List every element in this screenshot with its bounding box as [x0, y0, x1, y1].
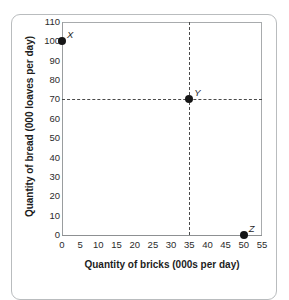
x-tick-label: 40 [202, 240, 213, 250]
x-tick-label: 15 [111, 240, 122, 250]
y-tick-label: 80 [34, 75, 60, 85]
y-tick-label: 30 [34, 172, 60, 182]
x-tick-label: 30 [166, 240, 177, 250]
x-tick-label: 0 [59, 240, 64, 250]
y-tick-label: 70 [34, 95, 60, 105]
x-tick-label: 25 [148, 240, 159, 250]
data-point-z [240, 231, 248, 239]
x-tick-label: 5 [78, 240, 83, 250]
x-tick-label: 45 [220, 240, 231, 250]
x-axis-title: Quantity of bricks (000s per day) [62, 259, 262, 270]
x-axis-tick-labels: 0510152025303540455055 [0, 240, 289, 254]
x-axis-line [62, 235, 262, 236]
plot-area-frame [62, 22, 262, 236]
x-tick-label: 55 [257, 240, 268, 250]
y-tick-label: 110 [34, 17, 60, 27]
y-axis-line [62, 22, 63, 236]
guide-line-vertical-35 [189, 22, 190, 235]
x-tick-label: 35 [184, 240, 195, 250]
x-tick-label: 10 [93, 240, 104, 250]
guide-line-horizontal-70 [62, 99, 262, 100]
y-tick-label: 60 [34, 114, 60, 124]
y-tick-label: 20 [34, 192, 60, 202]
data-point-label-y: Y [194, 88, 200, 98]
y-axis-title: Quantity of bread (000 loaves per day) [24, 20, 35, 234]
y-tick-label: 40 [34, 153, 60, 163]
x-tick-label: 20 [129, 240, 140, 250]
y-tick-label: 10 [34, 211, 60, 221]
data-point-label-z: Z [249, 224, 255, 234]
y-tick-label: 50 [34, 133, 60, 143]
y-tick-label: 100 [34, 37, 60, 47]
x-tick-label: 50 [239, 240, 250, 250]
y-tick-label: 0 [34, 230, 60, 240]
y-tick-label: 90 [34, 56, 60, 66]
data-point-label-x: X [67, 30, 73, 40]
